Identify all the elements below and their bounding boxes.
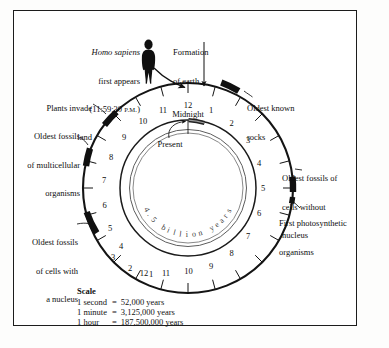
scale-table: 1 second = 52,000 years 1 minute = 3,125… <box>77 297 183 328</box>
scale-row-second: 1 second = 52,000 years <box>77 297 183 307</box>
scale-value-hour: 187,500,000 years <box>121 317 184 327</box>
first-photosynthetic-line1: First photosynthetic <box>279 219 387 229</box>
figure-root: 12 1 2 3 4 5 6 7 8 9 10 11 12 11 10 9 8 … <box>0 0 389 348</box>
clock-number-left-6: 6 <box>99 199 111 211</box>
clock-number-left-5: 5 <box>104 222 116 234</box>
first-photosynthetic-line2: organisms <box>279 248 387 258</box>
oldest-rocks-line1: Oldest known <box>247 104 337 114</box>
clock-number-right-2: 2 <box>226 117 238 129</box>
marker-cells-with-nucleus <box>87 212 97 233</box>
leader-cells-with-nucleus <box>77 223 89 224</box>
homo-sapiens-time-prefix: (11:59:30 <box>89 104 124 114</box>
clock-number-right-11: 11 <box>160 267 172 279</box>
human-figure-icon <box>142 40 155 84</box>
clock-number-right-7: 7 <box>242 230 254 242</box>
clock-number-left-3: 3 <box>107 251 119 263</box>
scale-row-hour: 1 hour = 187,500,000 years <box>77 317 183 327</box>
scale-value-minute: 3,125,000 years <box>121 307 184 317</box>
clock-number-left-2: 2 <box>124 262 136 274</box>
scale-eq-second: = <box>112 297 121 307</box>
scale-legend: Scale 1 second = 52,000 years 1 minute =… <box>77 286 183 327</box>
scale-heading: Scale <box>77 286 183 296</box>
present-label: Present <box>143 140 197 150</box>
scale-unit-minute: 1 minute <box>77 307 112 317</box>
multicellular-line2: of multicellular <box>0 161 80 171</box>
clock-number-right-5: 5 <box>257 182 269 194</box>
annotation-plants-invade-land: Plants invade land <box>22 85 92 161</box>
scale-row-minute: 1 minute = 3,125,000 years <box>77 307 183 317</box>
homo-sapiens-time-suffix: ) <box>137 104 140 114</box>
scale-eq-hour: = <box>112 317 121 327</box>
oldest-rocks-line2: rocks <box>247 133 337 143</box>
clock-number-left-8: 8 <box>105 151 117 163</box>
cells-with-nucleus-line2: of cells with <box>2 267 78 277</box>
scale-unit-second: 1 second <box>77 297 112 307</box>
formation-line1: Formation <box>173 48 253 58</box>
cells-with-nucleus-line3: a nucleus <box>2 295 78 305</box>
plants-invade-line2: land <box>22 133 92 143</box>
clock-number-left-7: 7 <box>98 174 110 186</box>
clock-number-right-6: 6 <box>253 207 265 219</box>
scale-value-second: 52,000 years <box>121 297 184 307</box>
clock-number-right-8: 8 <box>226 247 238 259</box>
multicellular-line3: organisms <box>0 189 80 199</box>
homo-sapiens-time-meridiem: P.M. <box>124 106 137 113</box>
midnight-label: Midnight <box>155 110 221 120</box>
scale-eq-minute: = <box>112 307 121 317</box>
plants-invade-line1: Plants invade <box>22 104 92 114</box>
annotation-formation-of-earth: Formation of earth <box>173 29 253 105</box>
cells-with-nucleus-line1: Oldest fossils <box>2 238 78 248</box>
clock-number-right-9: 9 <box>205 260 217 272</box>
clock-number-left-1: 1 <box>145 268 157 280</box>
annotation-first-photosynthetic: First photosynthetic organisms <box>279 200 387 276</box>
homo-sapiens-line1: Homo sapiens <box>30 48 140 58</box>
present-marker <box>189 120 205 123</box>
cells-without-nucleus-line1: Oldest fossils of <box>282 174 386 184</box>
annotation-oldest-known-rocks: Oldest known rocks <box>247 85 337 161</box>
annotation-cells-with-nucleus: Oldest fossils of cells with a nucleus <box>2 219 78 324</box>
scale-unit-hour: 1 hour <box>77 317 112 327</box>
formation-line2: of earth <box>173 77 253 87</box>
clock-number-right-10: 10 <box>183 265 195 277</box>
